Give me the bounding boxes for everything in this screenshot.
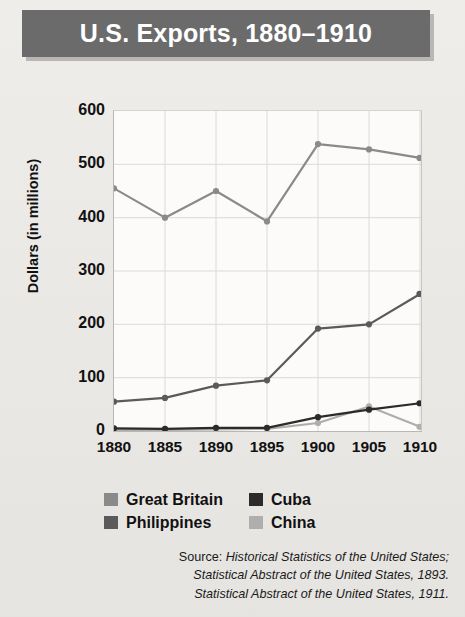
y-tick-label: 500 bbox=[47, 154, 105, 172]
data-point bbox=[315, 326, 321, 332]
data-point bbox=[162, 426, 168, 431]
y-tick-label: 600 bbox=[47, 101, 105, 119]
x-tick-label: 1905 bbox=[352, 438, 386, 456]
source-line-1: Source: Historical Statistics of the Uni… bbox=[0, 548, 449, 566]
data-point bbox=[366, 407, 372, 413]
y-tick-label: 300 bbox=[47, 261, 105, 279]
data-point bbox=[114, 399, 117, 405]
page-title: U.S. Exports, 1880–1910 bbox=[80, 19, 372, 48]
data-point bbox=[264, 425, 270, 431]
data-point bbox=[366, 321, 372, 327]
data-point bbox=[264, 218, 270, 224]
y-tick-label: 400 bbox=[47, 208, 105, 226]
plot-area bbox=[113, 110, 422, 432]
legend-swatch-cuba bbox=[249, 493, 263, 506]
legend-item-china: China bbox=[249, 514, 394, 532]
y-tick-label: 0 bbox=[47, 421, 105, 439]
legend-swatch-great-britain bbox=[104, 493, 118, 506]
legend-item-great-britain: Great Britain bbox=[104, 491, 249, 509]
chart-legend: Great BritainCubaPhilippinesChina bbox=[104, 488, 404, 534]
x-tick-label: 1900 bbox=[301, 438, 335, 456]
source-line-3: Statistical Abstract of the United State… bbox=[0, 585, 449, 603]
x-tick-label: 1895 bbox=[250, 438, 284, 456]
data-point bbox=[315, 420, 321, 426]
chart-lines-svg bbox=[114, 111, 421, 431]
y-tick-label: 200 bbox=[47, 314, 105, 332]
chart-container: Dollars (in millions) 010020030040050060… bbox=[0, 70, 465, 470]
data-point bbox=[366, 146, 372, 152]
source-prefix: Source: bbox=[179, 550, 226, 564]
legend-label: Philippines bbox=[126, 514, 211, 532]
chart-page: U.S. Exports, 1880–1910 Dollars (in mill… bbox=[0, 0, 465, 617]
legend-item-cuba: Cuba bbox=[249, 491, 394, 509]
chart-title-bar: U.S. Exports, 1880–1910 bbox=[22, 10, 430, 57]
data-point bbox=[162, 395, 168, 401]
source-title-2: Statistical Abstract of the United State… bbox=[193, 568, 449, 582]
data-point bbox=[264, 377, 270, 383]
x-tick-label: 1910 bbox=[403, 438, 437, 456]
x-axis-ticks: 1880188518901895190019051910 bbox=[113, 438, 422, 462]
legend-label: Cuba bbox=[271, 491, 311, 509]
legend-label: Great Britain bbox=[126, 491, 223, 509]
data-point bbox=[315, 141, 321, 147]
x-tick-label: 1890 bbox=[199, 438, 233, 456]
legend-swatch-philippines bbox=[104, 516, 118, 529]
y-axis-label: Dollars (in millions) bbox=[25, 131, 41, 321]
source-line-2: Statistical Abstract of the United State… bbox=[0, 566, 449, 584]
source-title-1: Historical Statistics of the United Stat… bbox=[226, 550, 449, 564]
legend-swatch-china bbox=[249, 516, 263, 529]
data-point bbox=[213, 425, 219, 431]
data-point bbox=[416, 155, 421, 161]
y-axis-ticks: 0100200300400500600 bbox=[45, 110, 105, 430]
source-title-3: Statistical Abstract of the United State… bbox=[194, 587, 449, 601]
data-point bbox=[315, 414, 321, 420]
legend-label: China bbox=[271, 514, 315, 532]
x-tick-label: 1880 bbox=[97, 438, 131, 456]
data-point bbox=[416, 400, 421, 406]
y-tick-label: 100 bbox=[47, 368, 105, 386]
data-point bbox=[213, 188, 219, 194]
legend-item-philippines: Philippines bbox=[104, 514, 249, 532]
data-point bbox=[213, 383, 219, 389]
x-tick-label: 1885 bbox=[148, 438, 182, 456]
data-point bbox=[162, 215, 168, 221]
source-note: Source: Historical Statistics of the Uni… bbox=[0, 548, 449, 603]
